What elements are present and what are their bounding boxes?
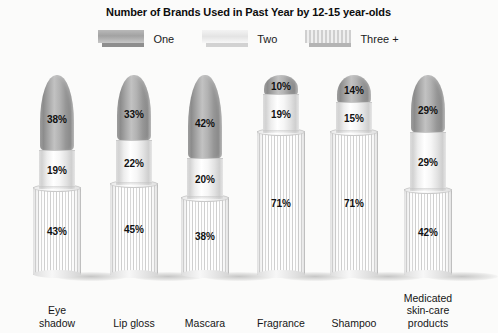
value-one-shampoo: 14% xyxy=(337,85,371,96)
bar-eye-shadow[interactable]: 43%19%38% xyxy=(33,75,81,275)
legend-item-two[interactable]: Two xyxy=(202,30,277,47)
base-foot xyxy=(404,270,452,278)
base-foot xyxy=(257,270,305,278)
base-foot xyxy=(330,270,378,278)
bar-medicated[interactable]: 42%29%29% xyxy=(404,75,452,275)
chart-title: Number of Brands Used in Past Year by 12… xyxy=(0,6,497,18)
value-three-plus-lip-gloss: 45% xyxy=(110,224,158,235)
category-label-line: Eye xyxy=(12,304,102,317)
value-two-eye-shadow: 19% xyxy=(39,165,75,176)
segment-three-plus-shampoo[interactable]: 71% xyxy=(330,131,378,275)
value-three-plus-eye-shadow: 43% xyxy=(33,226,81,237)
segment-one-eye-shadow[interactable]: 38% xyxy=(40,75,74,151)
legend-item-three-plus[interactable]: Three + xyxy=(305,30,398,47)
segment-three-plus-eye-shadow[interactable]: 43% xyxy=(33,187,81,275)
value-two-fragrance: 19% xyxy=(263,109,299,120)
base-foot xyxy=(33,270,81,278)
two-swatch-icon xyxy=(202,30,248,47)
segment-three-plus-fragrance[interactable]: 71% xyxy=(257,131,305,275)
value-two-shampoo: 15% xyxy=(336,113,372,124)
category-label-line: products xyxy=(383,317,473,330)
category-label-medicated: Medicatedskin-careproducts xyxy=(383,292,473,330)
segment-two-shampoo[interactable]: 15% xyxy=(336,102,372,133)
legend-label-one: One xyxy=(153,33,174,45)
legend-label-two: Two xyxy=(257,33,277,45)
segment-one-medicated[interactable]: 29% xyxy=(411,75,445,133)
value-one-eye-shadow: 38% xyxy=(40,114,74,125)
segment-two-eye-shadow[interactable]: 19% xyxy=(39,150,75,189)
value-three-plus-shampoo: 71% xyxy=(330,198,378,209)
segment-two-medicated[interactable]: 29% xyxy=(410,132,446,191)
value-one-mascara: 42% xyxy=(188,118,222,129)
segment-two-lip-gloss[interactable]: 22% xyxy=(116,140,152,185)
legend-item-one[interactable]: One xyxy=(98,30,174,47)
value-two-lip-gloss: 22% xyxy=(116,158,152,169)
segment-three-plus-medicated[interactable]: 42% xyxy=(404,189,452,275)
value-three-plus-medicated: 42% xyxy=(404,227,452,238)
value-two-medicated: 29% xyxy=(410,157,446,168)
segment-two-mascara[interactable]: 20% xyxy=(187,158,223,199)
segment-two-fragrance[interactable]: 19% xyxy=(263,94,299,133)
bar-shampoo[interactable]: 71%15%14% xyxy=(330,75,378,275)
value-two-mascara: 20% xyxy=(187,174,223,185)
value-one-medicated: 29% xyxy=(411,105,445,116)
segment-three-plus-lip-gloss[interactable]: 45% xyxy=(110,183,158,275)
value-three-plus-fragrance: 71% xyxy=(257,198,305,209)
segment-one-mascara[interactable]: 42% xyxy=(188,75,222,159)
base-foot xyxy=(181,270,229,278)
bar-mascara[interactable]: 38%20%42% xyxy=(181,75,229,275)
segment-one-lip-gloss[interactable]: 33% xyxy=(117,75,151,141)
category-label-line: skin-care xyxy=(383,304,473,317)
value-one-fragrance: 10% xyxy=(264,81,298,92)
value-three-plus-mascara: 38% xyxy=(181,231,229,242)
bar-fragrance[interactable]: 71%19%10% xyxy=(257,75,305,275)
segment-one-shampoo[interactable]: 14% xyxy=(337,75,371,103)
three-plus-swatch-icon xyxy=(305,30,351,47)
value-one-lip-gloss: 33% xyxy=(117,109,151,120)
one-swatch-icon xyxy=(98,30,144,47)
segment-one-fragrance[interactable]: 10% xyxy=(264,75,298,95)
bar-lip-gloss[interactable]: 45%22%33% xyxy=(110,75,158,275)
category-label-line: Medicated xyxy=(383,292,473,305)
segment-three-plus-mascara[interactable]: 38% xyxy=(181,197,229,275)
legend-label-three-plus: Three + xyxy=(360,33,398,45)
base-foot xyxy=(110,270,158,278)
chart-legend: One Two Three + xyxy=(0,30,497,47)
